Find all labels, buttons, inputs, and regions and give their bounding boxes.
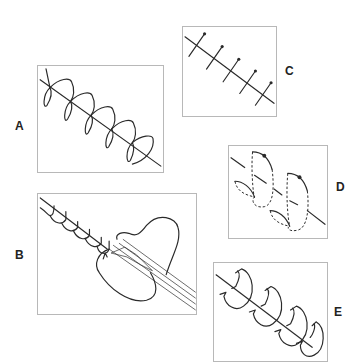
- panel-label-c: C: [285, 64, 294, 78]
- panel-label-a: A: [15, 119, 24, 133]
- panel-d-buried-mattress-sutures: [228, 145, 328, 239]
- suture-diagram-a: [38, 66, 163, 172]
- panel-b-running-suture-instrument: [37, 193, 197, 315]
- panel-e-locking-loop-sutures: [213, 262, 328, 362]
- panel-label-d: D: [336, 180, 345, 194]
- panel-c-interrupted-sutures: [182, 26, 277, 117]
- panel-a-continuous-loop-suture: [37, 65, 164, 173]
- suture-diagram-d: [229, 146, 327, 238]
- suture-diagram-b: [38, 194, 196, 314]
- panel-label-e: E: [334, 305, 342, 319]
- suture-diagram-e: [214, 263, 327, 361]
- panel-label-b: B: [15, 248, 24, 262]
- suture-diagram-c: [183, 27, 276, 116]
